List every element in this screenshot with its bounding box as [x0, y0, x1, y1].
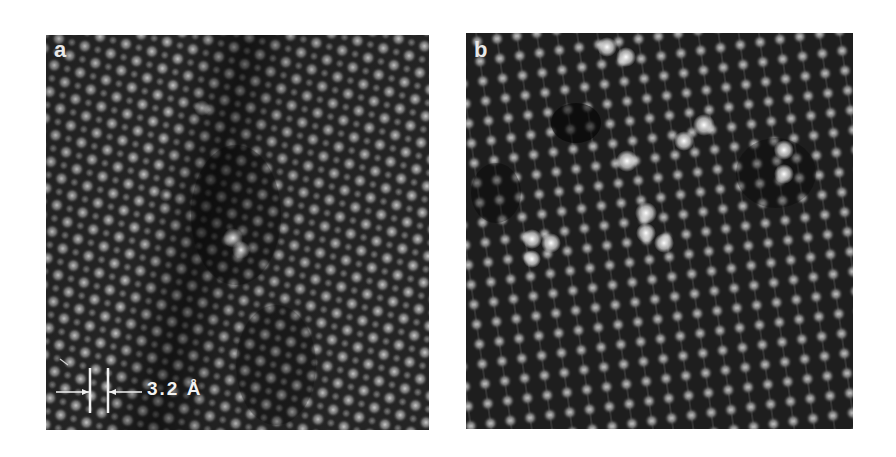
scale-bar-label: 3.2 Å	[147, 378, 202, 400]
micrograph-panel-b: b	[466, 33, 853, 429]
scale-bar-marker	[46, 35, 429, 430]
micrograph-panel-a: a 3.2 Å	[46, 35, 429, 430]
panel-label-b: b	[474, 39, 487, 61]
lattice-image-b	[466, 33, 853, 429]
panel-label-a: a	[54, 39, 66, 61]
